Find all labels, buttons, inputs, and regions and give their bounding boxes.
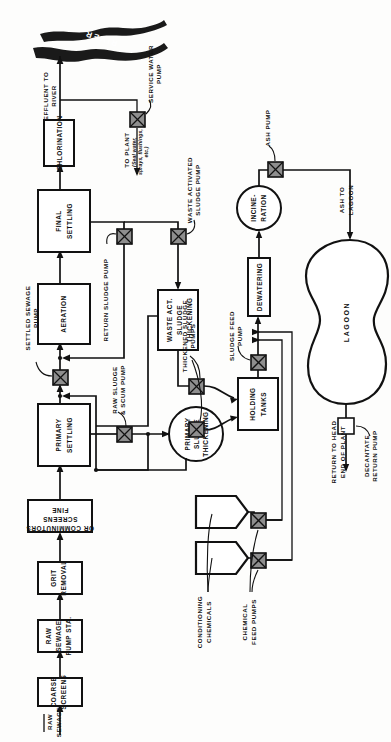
pump-label-line2: PUMPS (189, 324, 196, 349)
stream-label-line2: CHEMICALS (205, 601, 212, 643)
stream-ash-to-lagoon: ASH TO LAGOON (338, 185, 354, 215)
pump-label-line2: RETURN PUMP (371, 430, 378, 481)
stream-label-line2: END OF PLANT (339, 426, 346, 478)
unit-raw-sewage-pump-sta[interactable]: RAW SEWAGE PUMP STA. (38, 616, 82, 655)
pump-service-water[interactable] (130, 112, 145, 127)
stream-label-line1: CONDITIONING (196, 596, 203, 648)
unit-chlorination[interactable]: CHLORINATION (44, 115, 74, 170)
unit-label-line1: CHLORINATION (56, 115, 63, 170)
unit-label-line1: RAW (45, 627, 52, 644)
unit-label-line1: PRIMARY (55, 418, 62, 451)
unit-label-line2: SCREENS (42, 516, 77, 523)
pump-ash[interactable] (268, 162, 283, 177)
unit-label-line1: HOLDING (249, 387, 256, 420)
label-conditioning-chemicals: CONDITIONING CHEMICALS (196, 514, 212, 648)
label-sludge-feed-pump: SLUDGE FEED PUMP (228, 311, 250, 361)
unit-final-settling[interactable]: FINAL SETTLING (38, 190, 90, 252)
pump-raw-sludge-scum[interactable] (117, 427, 132, 442)
pump-label-line1: ASH PUMP (264, 109, 271, 146)
stream-label-line1: TO PLANT (123, 132, 130, 167)
unit-holding-tanks[interactable]: HOLDING TANKS (238, 378, 278, 430)
pump-label-line1: SETTLED SEWAGE (24, 286, 31, 351)
unit-label-line2: SEWAGE (55, 620, 62, 652)
inlet-label-line2: SEWAGE (55, 707, 62, 737)
unit-coarse-screens[interactable]: COARSE SCREENS (38, 674, 82, 709)
pump-thickened-sludge-lower[interactable] (189, 422, 204, 437)
inlet-raw-sewage: RAW SEWAGE (44, 707, 62, 737)
dewatering-to-incineration (256, 230, 262, 258)
pump-label-line2: & SCUM PUMP (119, 365, 126, 415)
pump-label-line1: SERVICE WATER (147, 45, 154, 103)
unit-label-line1: WASTE ACT. (166, 298, 173, 342)
pump-thickened-sludge-upper[interactable] (189, 379, 204, 394)
pump-waste-activated-sludge[interactable] (171, 229, 186, 244)
unit-aeration[interactable]: AERATION (38, 284, 90, 344)
label-return-sludge-pump: RETURN SLUDGE PUMP (102, 234, 116, 342)
pump-label-line2: PUMP (236, 326, 243, 346)
hopper-conditioning-chemicals-lower[interactable] (196, 542, 248, 574)
unit-label-line1: GRIT (50, 569, 57, 586)
unit-primary-settling[interactable]: PRIMARY SETTLING (38, 404, 90, 466)
unit-fine-screens-or-comminutors[interactable]: FINE SCREENS OR COMMINUTORS (26, 500, 94, 532)
label-chemical-feed-pumps: CHEMICAL FEED PUMPS (241, 530, 258, 645)
pump-chemical-feed-lower[interactable] (251, 553, 266, 568)
label-raw-sludge-scum-pump: RAW SLUDGE & SCUM PUMP (111, 365, 126, 426)
stream-label-line1: EFFLUENT TO (42, 72, 49, 121)
unit-label-line2: TANKS (260, 392, 267, 416)
stream-label-line2: RIVER (50, 85, 57, 107)
label-waste-activated-sludge-pump: WASTE ACTIVATED SLUDGE PUMP (186, 157, 201, 234)
unit-label-line1: FINE (51, 507, 68, 514)
pump-label-line2: FEED PUMPS (250, 599, 257, 645)
process-flow-diagram: RIVER (0, 0, 391, 742)
unit-label-line3: OR COMMINUTORS (26, 525, 94, 532)
stream-effluent-to-river: EFFLUENT TO RIVER (42, 72, 57, 121)
inlet-label-line1: RAW (46, 714, 53, 730)
flow-diagram-canvas: RIVER (0, 0, 391, 742)
pump-label-line1: RAW SLUDGE (111, 366, 118, 413)
unit-lagoon[interactable]: LAGOON (306, 240, 388, 404)
unit-label-line1: INCINE- (250, 194, 257, 222)
pump-label-line2: SLUDGE PUMP (194, 164, 201, 215)
pump-return-sludge[interactable] (117, 229, 132, 244)
pump-label-line1: SLUDGE FEED (228, 311, 235, 361)
pump-label-line1: DECANTATE (363, 435, 370, 477)
unit-label-line1: FINAL (55, 210, 62, 232)
pump-label-line2: PUMP (32, 308, 39, 328)
unit-label-line2: SETTLING (66, 203, 73, 239)
pump-chemical-feed-upper[interactable] (251, 513, 266, 528)
pump-sludge-feed[interactable] (251, 355, 266, 370)
pump-label-line2: PUMP (155, 64, 162, 84)
hopper-conditioning-chemicals-upper[interactable] (196, 496, 248, 528)
unit-label-line2: REMOVAL (60, 560, 67, 595)
unit-dewatering[interactable]: DEWATERING (248, 258, 270, 316)
pump-label-line1: RETURN SLUDGE PUMP (102, 259, 109, 342)
unit-label-line2: RATION (260, 194, 267, 221)
label-service-water-pump: SERVICE WATER PUMP (146, 45, 162, 114)
stream-label-line1: RETURN TO HEAD (330, 421, 337, 484)
stream-label-line4: etc.) (143, 146, 149, 157)
label-decantate-return-pump: DECANTATE RETURN PUMP (356, 426, 378, 482)
pump-settled-sewage[interactable] (53, 370, 68, 385)
unit-label-line3: PUMP STA. (65, 616, 72, 655)
unit-label-line1: COARSE (50, 676, 57, 707)
stream-label-line2: LAGOON (347, 185, 354, 215)
stream-label-line1: ASH TO (338, 187, 345, 214)
pump-label-line1: WASTE ACTIVATED (186, 157, 193, 223)
label-ash-pump: ASH PUMP (264, 109, 275, 161)
unit-label-line2: SETTLING (66, 417, 73, 453)
pump-label-line1: THICKENED SLUDGE (181, 300, 188, 372)
unit-label-line1: DEWATERING (256, 263, 263, 311)
unit-grit-removal[interactable]: GRIT REMOVAL (38, 560, 82, 595)
unit-label-line1: AERATION (60, 295, 67, 332)
pump-label-line1: CHEMICAL (241, 603, 248, 640)
unit-label-line2: SCREENS (60, 674, 67, 709)
unit-label-line1: LAGOON (343, 302, 350, 342)
unit-incineration[interactable]: INCINE- RATION (237, 186, 281, 230)
